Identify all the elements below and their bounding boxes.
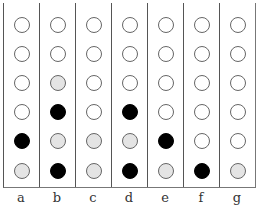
circle-a-1-white: [14, 17, 30, 33]
circle-d-6-black: [122, 163, 138, 179]
column-label-b: b: [39, 190, 75, 205]
circle-c-6-gray: [86, 163, 102, 179]
circle-b-4-black: [50, 104, 66, 120]
column-label-f: f: [183, 190, 219, 205]
circle-d-3-white: [122, 75, 138, 91]
circle-a-5-black: [14, 133, 30, 149]
circle-g-3-white: [230, 75, 246, 91]
circle-c-1-white: [86, 17, 102, 33]
circle-f-5-white: [194, 133, 210, 149]
circle-a-6-gray: [14, 163, 30, 179]
circle-b-6-black: [50, 163, 66, 179]
column-e: [148, 3, 184, 187]
dot-grid: [3, 3, 256, 188]
circle-e-5-black: [158, 133, 174, 149]
circle-f-4-white: [194, 104, 210, 120]
column-a: [4, 3, 40, 187]
column-b: [40, 3, 76, 187]
column-label-d: d: [111, 190, 147, 205]
circle-b-2-white: [50, 46, 66, 62]
column-label-c: c: [75, 190, 111, 205]
circle-f-3-white: [194, 75, 210, 91]
circle-d-2-white: [122, 46, 138, 62]
column-label-e: e: [147, 190, 183, 205]
circle-g-5-white: [230, 133, 246, 149]
circle-f-1-white: [194, 17, 210, 33]
circle-f-6-black: [194, 163, 210, 179]
circle-e-1-white: [158, 17, 174, 33]
column-d: [112, 3, 148, 187]
circle-b-1-white: [50, 17, 66, 33]
circle-d-5-gray: [122, 133, 138, 149]
circle-g-4-white: [230, 104, 246, 120]
circle-e-4-white: [158, 104, 174, 120]
circle-d-4-black: [122, 104, 138, 120]
circle-c-4-white: [86, 104, 102, 120]
circle-g-6-gray: [230, 163, 246, 179]
circle-e-6-gray: [158, 163, 174, 179]
column-c: [76, 3, 112, 187]
circle-f-2-white: [194, 46, 210, 62]
column-f: [184, 3, 220, 187]
circle-a-4-white: [14, 104, 30, 120]
circle-d-1-white: [122, 17, 138, 33]
circle-a-2-white: [14, 46, 30, 62]
circle-b-5-gray: [50, 133, 66, 149]
circle-a-3-white: [14, 75, 30, 91]
column-g: [220, 3, 256, 187]
circle-e-2-white: [158, 46, 174, 62]
circle-b-3-gray: [50, 75, 66, 91]
circle-c-5-gray: [86, 133, 102, 149]
column-labels: abcdefg: [3, 190, 255, 205]
circle-e-3-white: [158, 75, 174, 91]
circle-g-1-white: [230, 17, 246, 33]
circle-c-3-white: [86, 75, 102, 91]
column-label-a: a: [3, 190, 39, 205]
circle-c-2-white: [86, 46, 102, 62]
circle-g-2-white: [230, 46, 246, 62]
column-label-g: g: [219, 190, 255, 205]
